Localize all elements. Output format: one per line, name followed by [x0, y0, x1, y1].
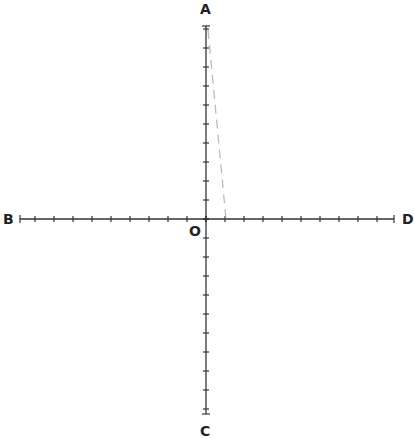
coordinate-diagram [0, 0, 414, 439]
label-a: A [200, 2, 211, 16]
label-origin: O [189, 224, 201, 238]
label-d: D [402, 212, 414, 226]
label-c: C [200, 424, 210, 438]
label-b: B [3, 212, 14, 226]
dashed-line [208, 30, 226, 219]
